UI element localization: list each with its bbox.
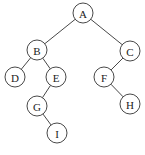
edge-g-i	[43, 114, 51, 125]
edge-a-c	[91, 19, 122, 44]
node-label: E	[53, 72, 60, 84]
node-label: A	[79, 8, 87, 20]
node-d: D	[5, 67, 25, 87]
edge-f-h	[111, 84, 123, 97]
node-f: F	[94, 67, 114, 87]
node-label: C	[126, 46, 133, 58]
node-a: A	[73, 3, 93, 23]
node-label: H	[126, 99, 134, 111]
node-label: G	[33, 101, 41, 113]
node-e: E	[46, 67, 66, 87]
node-i: I	[47, 123, 67, 143]
edge-e-g	[42, 85, 50, 97]
node-b: B	[27, 40, 47, 60]
node-label: F	[101, 72, 107, 84]
node-label: D	[11, 72, 19, 84]
node-c: C	[120, 41, 140, 61]
edge-c-f	[111, 58, 123, 70]
binary-tree-diagram: ABCDEFGHI	[0, 0, 145, 155]
node-label: B	[33, 45, 40, 57]
edge-b-e	[43, 58, 50, 69]
edge-a-b	[45, 19, 75, 43]
tree-nodes: ABCDEFGHI	[5, 3, 140, 143]
node-label: I	[55, 128, 59, 140]
node-h: H	[120, 94, 140, 114]
node-g: G	[27, 96, 47, 116]
edge-b-d	[21, 58, 30, 69]
